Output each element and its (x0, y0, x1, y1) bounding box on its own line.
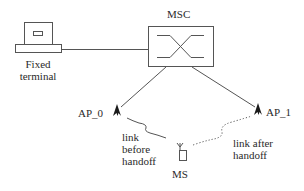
msc-label: MSC (167, 8, 190, 20)
link-after-line1: link after (233, 137, 273, 149)
ap0-label: AP_0 (78, 107, 103, 119)
fixed-terminal-label-line2: terminal (13, 70, 63, 82)
switch-crossover-icon (149, 27, 214, 67)
mobile-station-icon (177, 143, 187, 161)
computer-terminal-icon (16, 23, 62, 53)
link-before-handoff-label: link before handoff (122, 131, 156, 167)
fixed-terminal-label-line1: Fixed (13, 58, 63, 70)
msc-ap0-link (121, 67, 166, 107)
link-after-line2: handoff (233, 149, 273, 161)
ap1-label: AP_1 (266, 106, 291, 118)
msc-ap1-link (192, 67, 255, 107)
ms-label: MS (172, 168, 188, 180)
antenna-icon (254, 103, 262, 115)
link-before-line3: handoff (122, 155, 156, 167)
link-after-handoff-label: link after handoff (233, 137, 273, 161)
link-before-line2: before (122, 143, 156, 155)
handoff-diagram: Fixed terminal MSC AP_0 AP_1 MS link bef… (0, 0, 304, 191)
fixed-terminal-label: Fixed terminal (13, 58, 63, 82)
antenna-icon (113, 104, 121, 116)
link-before-line1: link (122, 131, 156, 143)
